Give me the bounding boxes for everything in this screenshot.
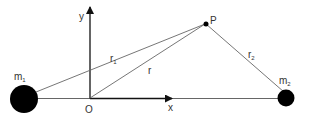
label-r1: r1 xyxy=(110,53,117,65)
label-y-axis: y xyxy=(79,11,84,22)
r-line xyxy=(90,24,205,98)
r2-line xyxy=(206,24,284,92)
r1-line xyxy=(36,24,205,92)
mass-m1 xyxy=(10,85,38,113)
label-r2: r2 xyxy=(248,49,255,61)
point-p xyxy=(204,22,209,27)
label-x-axis: x xyxy=(168,102,173,113)
label-m1: m1 xyxy=(14,71,26,83)
label-m2: m2 xyxy=(279,75,291,87)
two-mass-diagram: m1 y r1 r O x P r2 m2 xyxy=(0,0,310,119)
mass-m2 xyxy=(278,90,295,107)
label-origin: O xyxy=(85,104,93,115)
label-r: r xyxy=(148,65,152,76)
label-p: P xyxy=(210,15,217,26)
